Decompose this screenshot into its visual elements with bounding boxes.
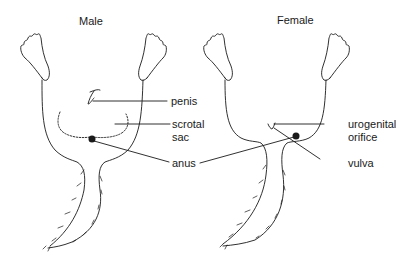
female-anus-pointer bbox=[200, 137, 294, 163]
female-body-right bbox=[223, 80, 326, 246]
female-title: Female bbox=[277, 14, 314, 26]
male-body-left bbox=[42, 80, 85, 246]
female-anus-dot bbox=[293, 133, 300, 140]
female-left-foot bbox=[204, 34, 233, 81]
male-diagram bbox=[21, 34, 170, 251]
label-urogenital: urogenital bbox=[348, 118, 396, 130]
male-body-right bbox=[48, 80, 143, 248]
scrotal-sac-outline bbox=[58, 112, 128, 138]
male-left-foot bbox=[21, 34, 50, 81]
female-body-left bbox=[223, 80, 267, 244]
label-sac: sac bbox=[172, 131, 189, 143]
label-scrotal: scrotal bbox=[172, 118, 204, 130]
male-title: Male bbox=[79, 15, 103, 27]
label-orifice: orifice bbox=[348, 131, 377, 143]
penis-shape bbox=[88, 90, 100, 104]
male-right-foot bbox=[139, 34, 167, 81]
label-anus: anus bbox=[172, 157, 196, 169]
male-anus-pointer bbox=[94, 141, 169, 162]
male-tail-hairs bbox=[43, 170, 102, 251]
female-tail-hairs bbox=[220, 165, 285, 249]
label-vulva: vulva bbox=[348, 157, 374, 169]
label-penis: penis bbox=[171, 95, 197, 107]
female-right-foot bbox=[322, 34, 350, 81]
